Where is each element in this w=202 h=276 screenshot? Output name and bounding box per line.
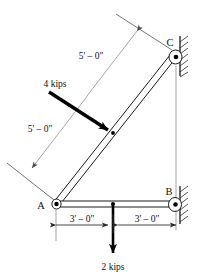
dimension-label-5ft-lower: 5' – 0" bbox=[28, 124, 53, 134]
load-4kips-dim-cross bbox=[67, 103, 70, 106]
joint-b-node bbox=[173, 202, 178, 207]
joint-a-node bbox=[54, 202, 58, 206]
figure-canvas: A B C 5' – 0" 5' – 0" 4 kips 3' – 0" 3' … bbox=[0, 0, 202, 276]
load-2kips-application-point bbox=[111, 202, 115, 206]
extension-line-c bbox=[116, 14, 172, 50]
dimension-group-ac bbox=[7, 14, 172, 200]
dimension-label-3ft-right: 3' – 0" bbox=[135, 214, 160, 224]
load-label-2kips: 2 kips bbox=[102, 262, 125, 272]
joint-label-c: C bbox=[166, 37, 173, 48]
joint-label-b: B bbox=[165, 186, 172, 197]
member-ac-body bbox=[53, 55, 175, 207]
dimension-line-ac-mid bbox=[85, 92, 90, 99]
joint-a bbox=[52, 199, 61, 209]
dimension-line-ac-upper bbox=[90, 31, 137, 92]
member-ac bbox=[53, 55, 175, 207]
load-4kips-application-point bbox=[111, 131, 115, 135]
load-4kips-arrow bbox=[49, 92, 115, 135]
joint-c-node bbox=[174, 55, 179, 60]
structural-diagram-svg: A B C 5' – 0" 5' – 0" 4 kips 3' – 0" 3' … bbox=[0, 0, 202, 276]
extension-line-a bbox=[7, 163, 54, 200]
load-4kips-shaft bbox=[49, 92, 108, 130]
joint-label-a: A bbox=[37, 200, 45, 211]
dimension-label-3ft-left: 3' – 0" bbox=[70, 214, 95, 224]
load-label-4kips: 4 kips bbox=[44, 79, 67, 89]
dimension-label-5ft-upper: 5' – 0" bbox=[79, 51, 104, 61]
